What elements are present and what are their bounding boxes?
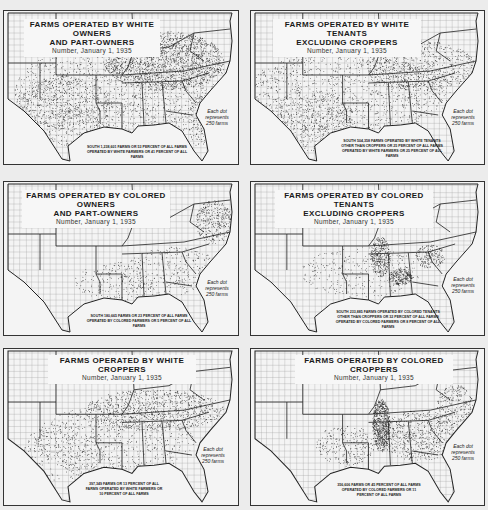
map-note: 356,606 farms or 45 percent of all farms… — [337, 483, 421, 498]
map-title: Farms Operated by White Tenants — [277, 20, 417, 38]
map-subtitle: Number, January 1, 1935 — [26, 218, 166, 226]
map-title-box: Farms Operated by White Tenants Excludin… — [273, 19, 421, 57]
dot-legend: Each dot represents 250 farms — [448, 108, 478, 126]
legend-line: 250 farms — [202, 291, 232, 297]
map-note: South 233,885 farms operated by colored … — [333, 310, 443, 330]
map-panel-white-croppers: Farms Operated by White Croppers Number,… — [3, 348, 239, 506]
map-title: Farms Operated by Colored Owners — [26, 191, 166, 209]
map-subtitle: Number, January 1, 1935 — [28, 47, 156, 55]
map-note: South 504,358 farms operated by white te… — [337, 139, 447, 159]
map-title-box: Farms Operated by White Croppers Number,… — [48, 355, 196, 384]
dot-legend: Each dot represents 250 farms — [202, 279, 232, 297]
map-subtitle: Number, January 1, 1935 — [277, 47, 417, 55]
map-title: Excluding Croppers — [277, 38, 417, 47]
map-title: Farms Operated by White Croppers — [52, 356, 192, 374]
map-panel-white-tenants: Farms Operated by White Tenants Excludin… — [250, 10, 485, 165]
map-subtitle: Number, January 1, 1935 — [299, 374, 449, 382]
dot-legend: Each dot represents 250 farms — [448, 443, 478, 461]
map-title: and Part-Owners — [28, 38, 156, 47]
legend-line: 250 farms — [202, 120, 232, 126]
legend-line: 250 farms — [448, 455, 478, 461]
legend-line: 250 farms — [448, 120, 478, 126]
map-title: and Part-Owners — [26, 209, 166, 218]
map-title: Farms Operated by White Owners — [28, 20, 156, 38]
map-panel-white-owners: Farms Operated by White Owners and Part-… — [3, 10, 239, 165]
legend-line: 250 farms — [198, 458, 228, 464]
map-title-box: Farms Operated by Colored Croppers Numbe… — [295, 355, 453, 384]
map-title: Excluding Croppers — [279, 209, 429, 218]
map-note: South 1,238,601 farms or 53 percent of a… — [82, 145, 192, 160]
map-title-box: Farms Operated by Colored Tenants Exclud… — [275, 190, 433, 228]
map-subtitle: Number, January 1, 1935 — [279, 218, 429, 226]
legend-line: 250 farms — [448, 288, 478, 294]
map-panel-colored-tenants: Farms Operated by Colored Tenants Exclud… — [250, 181, 485, 336]
map-panel-colored-croppers: Farms Operated by Colored Croppers Numbe… — [250, 348, 485, 506]
map-note: South 180,665 farms or 23 percent of all… — [84, 314, 194, 329]
map-title: Farms Operated by Colored Croppers — [299, 356, 449, 374]
dot-legend: Each dot represents 250 farms — [198, 446, 228, 464]
map-title-box: Farms Operated by White Owners and Part-… — [24, 19, 160, 57]
dot-legend: Each dot represents 250 farms — [202, 108, 232, 126]
map-subtitle: Number, January 1, 1935 — [52, 374, 192, 382]
map-title: Farms Operated by Colored Tenants — [279, 191, 429, 209]
map-panel-colored-owners: Farms Operated by Colored Owners and Par… — [3, 181, 239, 336]
map-note: 397,349 farms or 13 percent of all farms… — [84, 482, 164, 497]
map-title-box: Farms Operated by Colored Owners and Par… — [22, 190, 170, 228]
dot-legend: Each dot represents 250 farms — [448, 276, 478, 294]
